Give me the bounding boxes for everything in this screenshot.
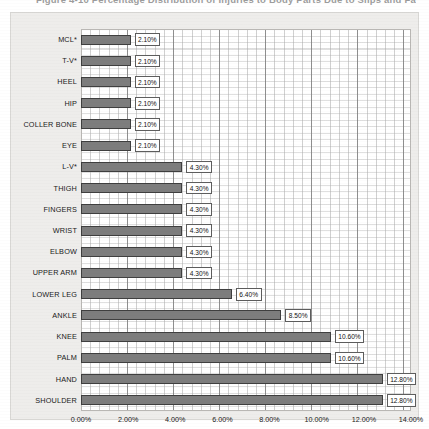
category-label: ELBOW <box>11 241 77 262</box>
x-axis-tick-label: 8.00% <box>259 415 279 424</box>
bar <box>81 332 331 342</box>
bar <box>81 35 131 45</box>
x-axis-tick-label: 4.00% <box>165 415 185 424</box>
category-label: T-V* <box>11 50 77 71</box>
bar-row: HIP2.10% <box>11 93 420 114</box>
bar <box>81 226 182 236</box>
bar-track: 10.60% <box>81 326 411 347</box>
x-axis-tick-label: 6.00% <box>212 415 232 424</box>
category-label: HAND <box>11 369 77 390</box>
x-axis-tick-label: 10.00% <box>305 415 329 424</box>
bar-row: PALM10.60% <box>11 347 420 368</box>
bar-value-label: 2.10% <box>135 33 161 46</box>
bar <box>81 395 383 405</box>
category-label: LOWER LEG <box>11 284 77 305</box>
bar-track: 4.30% <box>81 178 411 199</box>
bar-row: EYE2.10% <box>11 135 420 156</box>
bar-value-label: 4.30% <box>186 267 212 280</box>
category-label: ANKLE <box>11 305 77 326</box>
bar-track: 4.30% <box>81 199 411 220</box>
bar <box>81 98 131 108</box>
bar-row: WRIST4.30% <box>11 220 420 241</box>
bar-value-label: 10.60% <box>335 330 364 343</box>
x-axis-tick-label: 0.00% <box>71 415 91 424</box>
bar-row: LOWER LEG6.40% <box>11 284 420 305</box>
bar-track: 2.10% <box>81 71 411 92</box>
category-label: L-V* <box>11 156 77 177</box>
x-axis-tick-label: 2.00% <box>118 415 138 424</box>
category-label: UPPER ARM <box>11 262 77 283</box>
chart-page: Figure 4-10 Percentage Distribution of I… <box>0 0 429 429</box>
bar-track: 12.80% <box>81 369 411 390</box>
bar-value-label: 4.30% <box>186 224 212 237</box>
bar <box>81 141 131 151</box>
bar-row: COLLER BONE2.10% <box>11 114 420 135</box>
bar-track: 2.10% <box>81 50 411 71</box>
bar-row: T-V*2.10% <box>11 50 420 71</box>
bar-value-label: 2.10% <box>135 55 161 68</box>
category-label: WRIST <box>11 220 77 241</box>
x-axis-tick-label: 14.00% <box>399 415 423 424</box>
bar <box>81 289 232 299</box>
category-label: KNEE <box>11 326 77 347</box>
bar-track: 4.30% <box>81 156 411 177</box>
chart-frame: MCL*2.10%T-V*2.10%HEEL2.10%HIP2.10%COLLE… <box>10 12 419 420</box>
bar-track: 2.10% <box>81 114 411 135</box>
category-label: HIP <box>11 93 77 114</box>
bar-row: THIGH4.30% <box>11 178 420 199</box>
bar-track: 10.60% <box>81 347 411 368</box>
bar-row: KNEE10.60% <box>11 326 420 347</box>
bar <box>81 310 281 320</box>
bar-value-label: 6.40% <box>236 288 262 301</box>
figure-caption: Figure 4-10 Percentage Distribution of I… <box>36 0 416 5</box>
bar-track: 12.80% <box>81 390 411 411</box>
category-label: THIGH <box>11 178 77 199</box>
bar-track: 6.40% <box>81 284 411 305</box>
category-label: COLLER BONE <box>11 114 77 135</box>
bar <box>81 183 182 193</box>
x-axis-tick-label: 12.00% <box>352 415 376 424</box>
category-label: PALM <box>11 347 77 368</box>
bar <box>81 56 131 66</box>
category-label: FINGERS <box>11 199 77 220</box>
category-label: SHOULDER <box>11 390 77 411</box>
bar-value-label: 2.10% <box>135 97 161 110</box>
bar <box>81 204 182 214</box>
bar-value-label: 4.30% <box>186 246 212 259</box>
bar-track: 4.30% <box>81 262 411 283</box>
bar-value-label: 4.30% <box>186 161 212 174</box>
bar-track: 4.30% <box>81 220 411 241</box>
bar-value-label: 10.60% <box>335 352 364 365</box>
bar-value-label: 2.10% <box>135 139 161 152</box>
bar-track: 8.50% <box>81 305 411 326</box>
bar-row: HAND12.80% <box>11 369 420 390</box>
bar-value-label: 2.10% <box>135 76 161 89</box>
bar-rows: MCL*2.10%T-V*2.10%HEEL2.10%HIP2.10%COLLE… <box>11 29 420 411</box>
bar <box>81 162 182 172</box>
bar-row: MCL*2.10% <box>11 29 420 50</box>
x-axis: 0.00%2.00%4.00%6.00%8.00%10.00%12.00%14.… <box>81 413 411 429</box>
bar <box>81 247 182 257</box>
bar-row: UPPER ARM4.30% <box>11 262 420 283</box>
bar-row: SHOULDER12.80% <box>11 390 420 411</box>
bar-value-label: 8.50% <box>285 309 311 322</box>
bar-track: 2.10% <box>81 135 411 156</box>
bar-row: ELBOW4.30% <box>11 241 420 262</box>
bar-track: 4.30% <box>81 241 411 262</box>
bar-track: 2.10% <box>81 93 411 114</box>
bar <box>81 268 182 278</box>
bar <box>81 77 131 87</box>
bar-row: ANKLE8.50% <box>11 305 420 326</box>
bar-row: L-V*4.30% <box>11 156 420 177</box>
bar-value-label: 2.10% <box>135 118 161 131</box>
bar <box>81 119 131 129</box>
bar-value-label: 12.80% <box>387 394 416 407</box>
category-label: HEEL <box>11 71 77 92</box>
bar-track: 2.10% <box>81 29 411 50</box>
bar-value-label: 12.80% <box>387 373 416 386</box>
category-label: EYE <box>11 135 77 156</box>
bar-value-label: 4.30% <box>186 182 212 195</box>
bar <box>81 374 383 384</box>
bar-value-label: 4.30% <box>186 203 212 216</box>
bar <box>81 353 331 363</box>
